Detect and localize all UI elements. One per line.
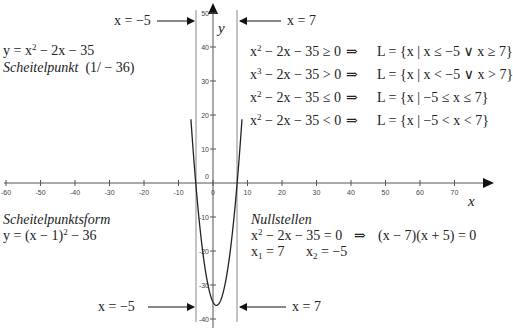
x-axis-arrow-icon — [483, 178, 494, 188]
implies-arrow: ⇒ — [346, 67, 358, 83]
svg-text:0: 0 — [211, 189, 215, 196]
solution-set: L = {x | x < −5 ∨ x > 7} — [377, 67, 513, 83]
label-top-left-x-minus5: x = −5 — [114, 13, 151, 29]
inequality-row: x2 − 2x − 35 < 0 — [250, 113, 341, 129]
svg-text:-50: -50 — [35, 189, 45, 196]
x-ticks: -60-50-40-30-20-100102030405060700 — [1, 173, 459, 196]
svg-text:0: 0 — [205, 173, 209, 180]
svg-text:70: 70 — [451, 189, 459, 196]
y-axis-arrow-icon — [208, 3, 218, 14]
solution-set: L = {x | −5 ≤ x ≤ 7} — [377, 90, 488, 106]
svg-text:40: 40 — [201, 44, 209, 51]
implies-arrow: ⇒ — [346, 113, 358, 129]
x-axis-label: x — [468, 193, 475, 209]
root-x2: x2 = −5 — [306, 244, 347, 260]
solution-set: L = {x | −5 < x < 7} — [377, 113, 489, 129]
svg-text:50: 50 — [201, 10, 209, 17]
svg-text:40: 40 — [347, 189, 355, 196]
svg-text:10: 10 — [201, 146, 209, 153]
implies-arrow: ⇒ — [346, 44, 358, 60]
svg-text:-10: -10 — [199, 214, 209, 221]
svg-text:30: 30 — [201, 78, 209, 85]
svg-text:30: 30 — [313, 189, 321, 196]
svg-text:20: 20 — [201, 112, 209, 119]
y-axis-label: y — [218, 20, 225, 36]
svg-text:-40: -40 — [70, 189, 80, 196]
inequality-row: x2 − 2x − 35 ≥ 0 — [250, 44, 341, 60]
svg-text:60: 60 — [416, 189, 424, 196]
root-x1: x1 = 7 — [251, 244, 284, 260]
svg-text:-20: -20 — [139, 189, 149, 196]
svg-text:-30: -30 — [104, 189, 114, 196]
function-equation: y = x2 − 2x − 35 — [3, 43, 94, 59]
implies-arrow: ⇒ — [354, 228, 366, 244]
vertex-info: Scheitelpunkt (1/ − 36) — [3, 60, 135, 76]
parabola-curve — [191, 119, 242, 305]
factored-form: (x − 7)(x + 5) = 0 — [378, 228, 476, 244]
inequality-row: x3 − 2x − 35 > 0 — [250, 67, 341, 83]
svg-text:10: 10 — [244, 189, 252, 196]
svg-text:50: 50 — [382, 189, 390, 196]
implies-arrow: ⇒ — [346, 90, 358, 106]
roots-equation: x2 − 2x − 35 = 0 — [251, 228, 342, 244]
svg-text:-60: -60 — [1, 189, 11, 196]
vertex-form-title: Scheitelpunktsform — [3, 212, 110, 228]
svg-text:-40: -40 — [199, 316, 209, 323]
label-bottom-left-x-minus5: x = −5 — [98, 299, 135, 315]
inequality-row: x2 − 2x − 35 ≤ 0 — [250, 90, 341, 106]
svg-text:-20: -20 — [199, 248, 209, 255]
roots-title: Nullstellen — [251, 212, 312, 228]
vertex-form-equation: y = (x − 1)2 − 36 — [3, 228, 97, 244]
solution-set: L = {x | x ≤ −5 ∨ x ≥ 7} — [377, 44, 513, 60]
label-top-right-x-7: x = 7 — [287, 13, 316, 29]
svg-text:20: 20 — [278, 189, 286, 196]
label-bottom-right-x-7: x = 7 — [292, 299, 321, 315]
svg-text:-10: -10 — [173, 189, 183, 196]
